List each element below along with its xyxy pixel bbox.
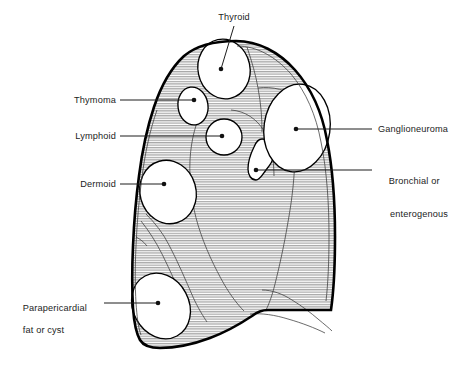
label-parapericardial-line2: fat or cyst (23, 325, 64, 335)
label-parapericardial-line1: Parapericardial (23, 303, 87, 313)
label-thymoma: Thymoma (46, 95, 116, 106)
dot-lymphoid (220, 134, 225, 139)
label-bronchial-line2: enterogenous (378, 209, 470, 220)
label-bronchial: Bronchial or enterogenous (378, 165, 470, 242)
dot-thyroid (219, 67, 224, 72)
dot-parapericardial (156, 301, 161, 306)
label-lymphoid: Lymphoid (46, 131, 116, 142)
mediastinal-mass-diagram: Thyroid Thymoma Lymphoid Dermoid Paraper… (0, 0, 470, 365)
dot-thymoma (192, 98, 197, 103)
label-thyroid: Thyroid (204, 12, 264, 23)
dot-bronchial (254, 168, 259, 173)
label-ganglioneuroma: Ganglioneuroma (378, 124, 470, 135)
dot-dermoid (162, 182, 167, 187)
dot-ganglioneuroma (294, 127, 299, 132)
label-dermoid: Dermoid (46, 179, 116, 190)
label-bronchial-line1: Bronchial or (389, 176, 440, 186)
label-parapericardial: Parapericardial fat or cyst (12, 292, 106, 347)
